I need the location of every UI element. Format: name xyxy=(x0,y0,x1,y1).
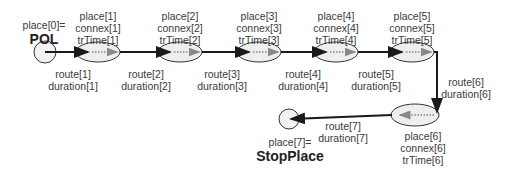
route-label-4: route[4] duration[4] xyxy=(278,68,328,92)
place-trtime: trTime[4] xyxy=(313,34,359,46)
place-name: place[1] xyxy=(75,10,121,22)
place-trtime: trTime[2] xyxy=(157,34,203,46)
route-duration: duration[6] xyxy=(441,88,491,100)
route-name: route[6] xyxy=(441,76,491,88)
end-place-name: StopPlace xyxy=(256,148,324,164)
place-label-5: place[5] connex[5] trTime[5] xyxy=(389,10,435,46)
place-connex: connex[6] xyxy=(400,142,446,154)
start-place-name: POL xyxy=(23,31,66,47)
route-duration: duration[2] xyxy=(121,80,171,92)
place-name: place[6] xyxy=(400,130,446,142)
place-label-4: place[4] connex[4] trTime[4] xyxy=(313,10,359,46)
route-duration: duration[7] xyxy=(318,132,368,144)
start-place-label: place[0]= xyxy=(23,19,66,31)
route-name: route[4] xyxy=(278,68,328,80)
route-label-1: route[1] duration[1] xyxy=(48,68,98,92)
place-connex: connex[3] xyxy=(236,22,282,34)
route-name: route[1] xyxy=(48,68,98,80)
place-label-6: place[6] connex[6] trTime[6] xyxy=(400,130,446,166)
place-trtime: trTime[5] xyxy=(389,34,435,46)
route-label-2: route[2] duration[2] xyxy=(121,68,171,92)
place-label-3: place[3] connex[3] trTime[3] xyxy=(236,10,282,46)
route-name: route[2] xyxy=(121,68,171,80)
route-name: route[5] xyxy=(351,68,401,80)
route-duration: duration[3] xyxy=(197,80,247,92)
place-label-2: place[2] connex[2] trTime[2] xyxy=(157,10,203,46)
route-name: route[7] xyxy=(318,120,368,132)
route-label-6: route[6] duration[6] xyxy=(441,76,491,100)
place-connex: connex[2] xyxy=(157,22,203,34)
place-name: place[3] xyxy=(236,10,282,22)
place-connex: connex[1] xyxy=(75,22,121,34)
route-duration: duration[5] xyxy=(351,80,401,92)
place-connex: connex[5] xyxy=(389,22,435,34)
route-duration: duration[1] xyxy=(48,80,98,92)
place-name: place[5] xyxy=(389,10,435,22)
end-label: place[7]= StopPlace xyxy=(256,136,324,164)
route-arrow-7 xyxy=(291,115,392,119)
route-label-3: route[3] duration[3] xyxy=(197,68,247,92)
place-trtime: trTime[6] xyxy=(400,154,446,166)
route-label-7: route[7] duration[7] xyxy=(318,120,368,144)
place-label-1: place[1] connex[1] trTime[1] xyxy=(75,10,121,46)
route-name: route[3] xyxy=(197,68,247,80)
start-label: place[0]= POL xyxy=(23,19,66,47)
end-place-label: place[7]= xyxy=(256,136,324,148)
place-name: place[4] xyxy=(313,10,359,22)
place-name: place[2] xyxy=(157,10,203,22)
route-duration: duration[4] xyxy=(278,80,328,92)
route-arrow-6 xyxy=(434,52,437,112)
place-trtime: trTime[1] xyxy=(75,34,121,46)
place-trtime: trTime[3] xyxy=(236,34,282,46)
place-connex: connex[4] xyxy=(313,22,359,34)
route-label-5: route[5] duration[5] xyxy=(351,68,401,92)
